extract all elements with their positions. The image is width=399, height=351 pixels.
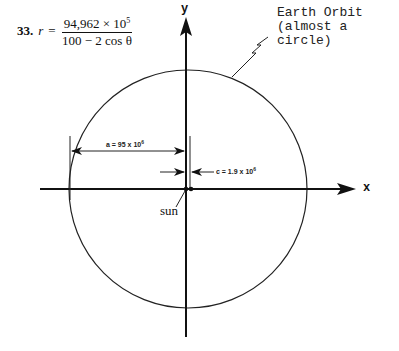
orbit-equation: 33. r = 94,962 × 105 100 − 2 cos θ	[17, 14, 132, 48]
c-value-exponent: 6	[253, 166, 256, 172]
fraction-numerator: 94,962 × 105	[62, 14, 133, 33]
c-value-label: c = 1.9 x 106	[216, 166, 256, 175]
diagram-canvas	[0, 0, 399, 351]
numerator-exponent: 5	[126, 16, 130, 25]
numerator-base: 94,962 × 10	[64, 16, 127, 31]
orbit-label-line2: (almost a circle)	[277, 20, 399, 48]
equation-fraction: 94,962 × 105 100 − 2 cos θ	[62, 14, 133, 48]
a-value-exponent: 6	[141, 139, 144, 145]
equation-variable: r	[38, 23, 43, 39]
center-point	[184, 187, 189, 192]
y-axis-label: y	[181, 2, 188, 16]
orbit-label: Earth Orbit (almost a circle)	[277, 6, 399, 48]
fraction-denominator: 100 − 2 cos θ	[62, 33, 132, 48]
c-value-text: c = 1.9 x 10	[216, 168, 253, 175]
orbit-label-line1: Earth Orbit	[277, 6, 399, 20]
zigzag-leader-icon	[232, 37, 268, 77]
a-value-text: a = 95 x 10	[106, 141, 141, 148]
problem-number: 33.	[17, 23, 33, 39]
sun-label: sun	[160, 203, 178, 219]
orbit-diagram: 33. r = 94,962 × 105 100 − 2 cos θ Earth…	[0, 0, 399, 351]
a-value-label: a = 95 x 106	[106, 139, 144, 148]
sun-point	[189, 187, 194, 192]
x-axis-label: x	[363, 181, 370, 195]
equals-sign: =	[48, 23, 55, 39]
